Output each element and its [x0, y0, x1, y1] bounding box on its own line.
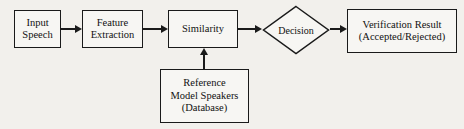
node-verification-result: Verification Result (Accepted/Rejected)	[347, 9, 457, 53]
node-feature-extraction-line-2: Extraction	[91, 29, 135, 42]
arrow-right-icon-similarity-to-decision	[255, 25, 262, 33]
node-reference-database: Reference Model Speakers (Database)	[160, 69, 249, 123]
connector-decision-to-result	[330, 28, 340, 30]
node-decision-label: Decision	[262, 5, 330, 55]
arrow-right-icon-decision-to-result	[340, 25, 347, 33]
connector-similarity-to-decision	[238, 28, 255, 30]
node-input-speech: Input Speech	[14, 10, 61, 48]
node-reference-database-line-2: Model Speakers	[171, 90, 239, 103]
node-decision: Decision	[262, 5, 330, 55]
arrow-right-icon-speech-to-feature	[75, 25, 82, 33]
connector-feature-to-similarity	[143, 28, 161, 30]
node-feature-extraction-line-1: Feature	[97, 17, 129, 30]
arrow-right-icon-feature-to-similarity	[161, 25, 168, 33]
arrow-up-icon-database-to-similarity	[200, 48, 208, 55]
connector-database-to-similarity	[203, 55, 205, 70]
node-feature-extraction: Feature Extraction	[82, 10, 143, 48]
node-similarity: Similarity	[168, 10, 238, 48]
node-input-speech-line-2: Speech	[22, 29, 52, 42]
node-similarity-line-1: Similarity	[182, 23, 224, 36]
connector-speech-to-feature	[61, 28, 75, 30]
flowchart-diagram: Input Speech Feature Extraction Similari…	[0, 0, 464, 129]
node-reference-database-line-1: Reference	[183, 77, 226, 90]
node-verification-result-line-1: Verification Result	[362, 19, 441, 32]
node-input-speech-line-1: Input	[26, 17, 48, 30]
node-verification-result-line-2: (Accepted/Rejected)	[359, 31, 445, 44]
node-reference-database-line-3: (Database)	[182, 102, 227, 115]
